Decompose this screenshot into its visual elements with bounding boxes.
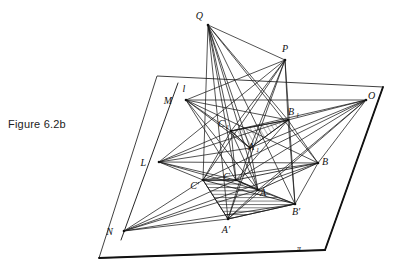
point-L	[158, 161, 161, 164]
label-C: C	[223, 171, 230, 182]
point-Bprime	[294, 203, 297, 206]
point-Q	[207, 24, 210, 27]
point-M	[185, 99, 188, 102]
point-B1	[287, 119, 290, 122]
point-Cprime	[202, 179, 205, 182]
label-line-l: l	[183, 83, 186, 94]
label-Bprime: B′	[292, 206, 301, 217]
label-C1: C	[218, 118, 225, 129]
label-Cprime: C′	[190, 180, 200, 191]
label-N: N	[105, 226, 114, 237]
figure-caption: Figure 6.2b	[8, 118, 66, 130]
label-Aprime: A′	[221, 224, 231, 235]
label-Q: Q	[196, 10, 204, 21]
label-P: P	[281, 43, 288, 54]
label-O: O	[368, 90, 375, 101]
diagram-background	[0, 0, 408, 274]
label-M: M	[163, 95, 173, 106]
label-A: A	[259, 187, 267, 198]
label-B1: B	[288, 106, 294, 117]
point-N	[123, 230, 126, 233]
label-B: B	[322, 156, 328, 167]
point-Aprime	[227, 218, 230, 221]
point-O	[365, 99, 368, 102]
label-C1-subscript: 1	[226, 123, 229, 130]
point-B	[317, 162, 320, 165]
point-P	[284, 59, 287, 62]
point-A	[257, 189, 260, 192]
point-C	[235, 179, 238, 182]
label-A1: A	[247, 141, 255, 152]
geometry-diagram: Q P O M L N B 1 C 1 A 1 B C A C′ A′ B′ l…	[0, 0, 408, 274]
figure-container: Figure 6.2b	[0, 0, 408, 274]
point-C1	[230, 130, 233, 133]
label-B1-subscript: 1	[296, 111, 299, 118]
label-A1-subscript: 1	[256, 146, 259, 153]
label-L: L	[139, 157, 146, 168]
